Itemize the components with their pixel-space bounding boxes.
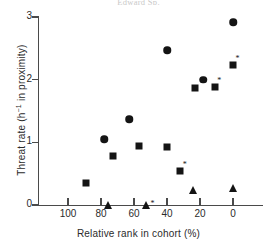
data-point-circle [125,115,133,123]
data-point-circle [200,76,208,84]
figure-header-caption: Edward Sp. [0,0,277,5]
data-point-asterisk: * [183,161,187,169]
x-axis-tick-label: 100 [60,208,77,219]
data-point-square [83,180,90,187]
y-axis-title-pre: Threat rate (h [16,112,27,175]
y-axis-title-post: in proximity) [16,45,27,104]
x-axis-tick-label: 0 [230,208,236,219]
x-axis-tick-label: 20 [194,208,205,219]
x-axis-tick-label: 60 [128,208,139,219]
data-point-square: * [211,84,218,91]
data-point-circle [229,18,237,26]
data-point-circle [163,46,171,54]
x-axis-tick-label: 40 [161,208,172,219]
x-axis-title: Relative rank in cohort (%) [0,228,277,239]
data-point-square [135,143,142,150]
scatter-plot-figure: Edward Sp. 3210 100806040200 Relative ra… [0,0,277,248]
data-point-square [164,144,171,151]
data-point-triangle [189,186,197,194]
y-axis-title-exponent: −1 [15,104,22,112]
data-point-asterisk: * [151,200,155,208]
data-point-triangle [229,184,237,192]
data-point-asterisk: * [236,55,240,63]
plot-data-area [38,17,263,205]
data-point-square [109,153,116,160]
data-point-square: * [177,168,184,175]
x-axis-tick-label: 80 [95,208,106,219]
data-point-triangle [104,201,112,209]
data-point-square [192,84,199,91]
data-point-triangle: * [142,201,150,209]
data-point-asterisk: * [217,77,221,85]
data-point-square: * [230,62,237,69]
data-point-circle [101,135,109,143]
y-axis-title: Threat rate (h−1 in proximity) [15,15,27,205]
